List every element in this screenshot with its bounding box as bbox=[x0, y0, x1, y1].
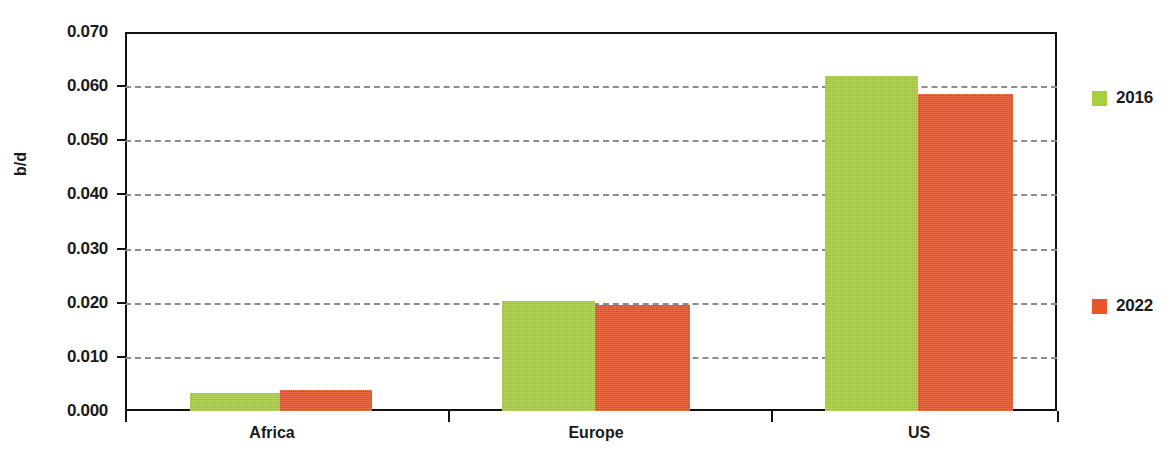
x-axis-label-africa: Africa bbox=[249, 424, 294, 442]
y-tick-label: 0.030 bbox=[34, 239, 108, 259]
legend-swatch-2016 bbox=[1092, 91, 1107, 106]
bar-africa-2022 bbox=[280, 390, 372, 411]
x-tick-mark bbox=[1057, 411, 1059, 422]
x-tick-mark bbox=[771, 411, 773, 422]
legend-swatch-2022 bbox=[1092, 299, 1107, 314]
bar-us-2022 bbox=[918, 94, 1013, 411]
y-tick-label: 0.010 bbox=[34, 347, 108, 367]
y-tick-label: 0.020 bbox=[34, 293, 108, 313]
bar-africa-2016 bbox=[190, 393, 280, 411]
x-tick-mark bbox=[125, 411, 127, 422]
y-tick-label: 0.070 bbox=[34, 22, 108, 42]
bar-europe-2016 bbox=[502, 301, 595, 411]
bar-chart: 0.0700.0600.0500.0400.0300.0200.0100.000… bbox=[0, 0, 1176, 458]
legend-label-2022: 2022 bbox=[1116, 296, 1153, 316]
y-tick-label: 0.040 bbox=[34, 184, 108, 204]
x-tick-mark bbox=[448, 411, 450, 422]
y-axis-ticks: 0.0700.0600.0500.0400.0300.0200.0100.000 bbox=[34, 0, 108, 458]
bar-us-2016 bbox=[825, 76, 918, 411]
cropped-title-remnant bbox=[0, 0, 1176, 5]
legend-item-2016[interactable]: 2016 bbox=[1092, 88, 1153, 108]
y-tick-label: 0.000 bbox=[34, 401, 108, 421]
legend-label-2016: 2016 bbox=[1116, 88, 1153, 108]
y-tick-label: 0.060 bbox=[34, 76, 108, 96]
x-axis-label-us: US bbox=[908, 424, 930, 442]
legend-item-2022[interactable]: 2022 bbox=[1092, 296, 1153, 316]
y-axis-title: b/d bbox=[12, 152, 30, 176]
bar-europe-2022 bbox=[595, 305, 690, 411]
x-axis-label-europe: Europe bbox=[568, 424, 623, 442]
bars-group bbox=[125, 32, 1057, 411]
y-tick-label: 0.050 bbox=[34, 130, 108, 150]
